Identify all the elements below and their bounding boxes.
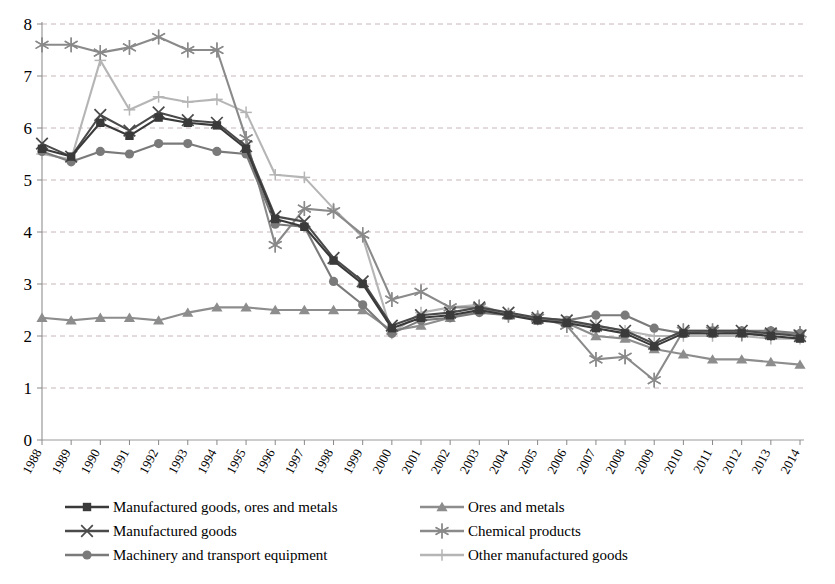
data-point-marker [125,149,134,158]
legend-item[interactable]: Manufactured goods [63,519,338,543]
legend-key-marker [436,549,448,561]
data-point-marker [329,277,338,286]
legend-item-label: Chemical products [466,522,581,540]
data-point-marker [388,324,396,332]
y-tick-label: 6 [24,119,33,138]
x-tick-label: 2009 [631,446,656,476]
chart-legend: Manufactured goods, ores and metals Manu… [0,495,835,584]
legend-key-plus-icon [418,546,466,564]
legend-key-glyph [63,498,111,516]
data-point-marker [96,147,105,156]
legend-key-marker [82,550,91,559]
legend-key-glyph [63,522,111,540]
x-tick-label: 1988 [19,446,44,476]
data-point-marker [300,223,308,231]
x-tick-label: 2010 [661,446,686,476]
y-tick-label: 5 [24,171,33,190]
x-tick-label: 2001 [398,446,423,476]
data-point-marker [737,329,745,337]
data-point-marker [184,119,192,127]
data-point-marker [358,300,367,309]
data-point-marker [83,503,91,511]
data-point-marker [621,329,629,337]
x-tick-label: 1999 [340,446,365,476]
x-tick-label: 1995 [223,446,248,476]
data-point-marker [650,324,659,333]
data-point-marker [154,113,162,121]
y-tick-label: 1 [24,379,33,398]
x-tick-label: 2013 [748,446,773,476]
y-tick-label: 7 [24,67,33,86]
x-tick-label: 2005 [515,446,540,476]
x-tick-label: 2007 [573,446,599,476]
data-point-marker [533,316,541,324]
series-line [42,144,800,334]
x-tick-label: 1990 [78,446,103,476]
data-point-marker [591,311,600,320]
x-tick-label: 2011 [690,446,715,476]
data-point-marker [767,332,775,340]
legend-item[interactable]: Ores and metals [418,495,628,519]
data-point-marker [183,139,192,148]
legend-item[interactable]: Chemical products [418,519,628,543]
data-point-marker [213,121,221,129]
data-point-marker [504,311,512,319]
x-tick-label: 1989 [48,446,73,476]
data-point-marker [592,324,600,332]
data-point-marker [708,329,716,337]
legend-column-left: Manufactured goods, ores and metals Manu… [63,495,338,567]
x-tick-label: 1996 [252,446,278,476]
legend-key-glyph [418,522,466,540]
x-tick-label: 2014 [777,446,803,476]
x-tick-label: 2006 [544,446,570,476]
plot-area: 0123456781988198919901991199219931994199… [0,0,835,500]
legend-key-glyph [418,546,466,564]
legend-item-label: Machinery and transport equipment [111,546,328,564]
data-point-marker [358,280,366,288]
data-point-marker [679,329,687,337]
y-tick-label: 2 [24,327,33,346]
data-point-marker [796,334,804,342]
x-tick-label: 2000 [369,446,394,476]
legend-key-glyph [63,546,111,564]
data-point-marker [38,145,46,153]
legend-item[interactable]: Manufactured goods, ores and metals [63,495,338,519]
data-point-marker [96,119,104,127]
x-tick-label: 2008 [602,446,627,476]
series-5 [36,55,806,345]
x-tick-label: 2004 [486,446,512,476]
x-tick-label: 1994 [194,446,220,476]
x-tick-label: 1993 [165,446,190,476]
legend-item-label: Other manufactured goods [466,546,628,564]
data-point-marker [563,319,571,327]
data-point-marker [446,311,454,319]
data-point-marker [475,306,483,314]
legend-item[interactable]: Machinery and transport equipment [63,543,338,567]
x-tick-label: 1997 [282,446,308,476]
y-tick-label: 8 [24,15,33,34]
legend-key-circle-icon [63,546,111,564]
y-tick-label: 3 [24,275,33,294]
y-tick-label: 4 [24,223,33,242]
data-point-marker [67,152,75,160]
data-point-marker [620,311,629,320]
x-tick-label: 2002 [427,446,452,476]
legend-item-label: Manufactured goods, ores and metals [111,498,338,516]
data-point-marker [154,139,163,148]
x-tick-label: 2003 [457,446,482,476]
x-tick-label: 1992 [136,446,161,476]
data-point-marker [125,132,133,140]
data-point-marker [212,147,221,156]
legend-item[interactable]: Other manufactured goods [418,543,628,567]
data-point-marker [329,256,337,264]
legend-item-label: Ores and metals [466,498,565,516]
legend-item-label: Manufactured goods [111,522,237,540]
data-point-marker [417,314,425,322]
legend-key-glyph [418,498,466,516]
data-point-marker [271,215,279,223]
legend-key-square-icon [63,498,111,516]
legend-column-right: Ores and metals Chemical products Other … [418,495,628,567]
data-point-marker [82,550,91,559]
legend-key-asterisk-icon [418,522,466,540]
line-chart: 0123456781988198919901991199219931994199… [0,0,835,584]
